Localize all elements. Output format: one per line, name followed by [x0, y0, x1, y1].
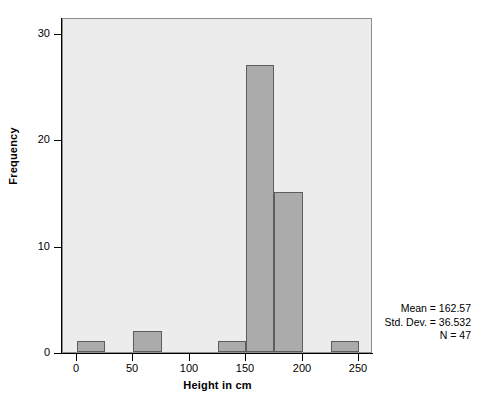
y-axis-tick — [54, 247, 62, 248]
x-axis-tick-label: 150 — [225, 363, 265, 374]
x-axis-tick — [245, 354, 246, 361]
y-axis-tick — [54, 140, 62, 141]
y-axis-tick-label: 0 — [0, 347, 50, 358]
x-axis-tick-label: 50 — [112, 363, 152, 374]
y-axis-tick — [54, 34, 62, 35]
histogram-bar — [274, 192, 302, 352]
stat-mean: Mean = 162.57 — [371, 302, 471, 316]
x-axis-title: Height in cm — [62, 379, 373, 391]
x-axis-tick-label: 200 — [282, 363, 322, 374]
x-axis-tick — [358, 354, 359, 361]
histogram-figure: 0102030 Frequency 050100150200250 Height… — [0, 0, 481, 404]
y-axis-line — [61, 18, 62, 354]
x-axis-tick — [76, 354, 77, 361]
x-axis-tick — [302, 354, 303, 361]
x-axis-tick-label: 100 — [169, 363, 209, 374]
y-axis-tick — [54, 353, 62, 354]
y-axis-title: Frequency — [7, 96, 19, 216]
histogram-bar — [331, 341, 359, 352]
stat-n: N = 47 — [371, 329, 471, 343]
histogram-bar — [246, 65, 274, 352]
x-axis-line — [62, 353, 373, 354]
x-axis-tick-label: 250 — [338, 363, 378, 374]
y-axis-tick-label: 10 — [0, 241, 50, 252]
histogram-bar — [218, 341, 246, 352]
x-axis-tick-label: 0 — [56, 363, 96, 374]
plot-area — [62, 18, 372, 353]
x-axis-tick — [189, 354, 190, 361]
statistics-annotation: Mean = 162.57 Std. Dev. = 36.532 N = 47 — [371, 302, 471, 343]
y-axis-tick-label: 30 — [0, 28, 50, 39]
histogram-bar — [133, 331, 161, 352]
x-axis-tick — [132, 354, 133, 361]
histogram-bar — [77, 341, 105, 352]
stat-stddev: Std. Dev. = 36.532 — [371, 316, 471, 330]
